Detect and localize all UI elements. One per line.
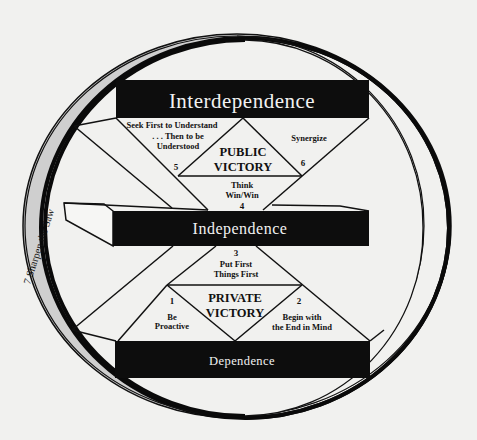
independence-label: Independence bbox=[193, 220, 288, 238]
svg-text:Win/Win: Win/Win bbox=[225, 190, 259, 200]
seven-habits-diagram: 7 Sharpen the Saw Interdependence bbox=[0, 0, 477, 440]
svg-text:3: 3 bbox=[234, 248, 239, 258]
svg-text:2: 2 bbox=[297, 296, 302, 306]
public-victory: PUBLIC VICTORY bbox=[214, 145, 272, 174]
svg-text:5: 5 bbox=[174, 162, 179, 172]
independence-bar: Independence bbox=[113, 211, 369, 246]
svg-text:PRIVATE: PRIVATE bbox=[208, 291, 262, 305]
svg-text:Things First: Things First bbox=[214, 269, 259, 279]
svg-text:Put First: Put First bbox=[220, 259, 253, 269]
dependence-label: Dependence bbox=[209, 354, 275, 368]
svg-text:Proactive: Proactive bbox=[155, 321, 190, 331]
svg-text:Understood: Understood bbox=[157, 141, 200, 151]
dependence-bar: Dependence bbox=[115, 341, 370, 378]
private-victory: PRIVATE VICTORY bbox=[206, 291, 264, 320]
svg-text:the End in Mind: the End in Mind bbox=[272, 322, 332, 332]
svg-text:Seek First to Understand: Seek First to Understand bbox=[127, 120, 218, 130]
svg-text:VICTORY: VICTORY bbox=[214, 160, 272, 174]
svg-text:Synergize: Synergize bbox=[291, 133, 327, 143]
svg-text:Think: Think bbox=[231, 180, 253, 190]
svg-text:. . . Then to be: . . . Then to be bbox=[152, 131, 204, 141]
interdependence-label: Interdependence bbox=[169, 89, 315, 113]
svg-text:PUBLIC: PUBLIC bbox=[219, 145, 266, 159]
svg-text:4: 4 bbox=[240, 201, 245, 211]
svg-text:6: 6 bbox=[301, 158, 306, 168]
svg-text:1: 1 bbox=[170, 296, 175, 306]
svg-text:VICTORY: VICTORY bbox=[206, 306, 264, 320]
interdependence-bar: Interdependence bbox=[116, 80, 369, 118]
svg-text:Begin with: Begin with bbox=[283, 312, 322, 322]
